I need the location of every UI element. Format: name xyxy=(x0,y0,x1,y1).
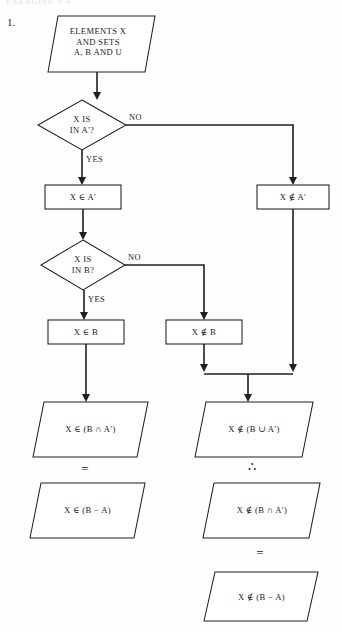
edge-label-decision-a-yes: YES xyxy=(86,155,103,164)
relation-symbol-left-equals: = xyxy=(55,461,115,477)
flowchart-canvas xyxy=(0,0,342,632)
relation-symbol-right-therefore: ∴ xyxy=(222,459,282,475)
arrowhead-not-in-b-to-merge xyxy=(200,364,208,372)
relation-symbol-right-equals: = xyxy=(230,545,290,561)
arrowhead-decision-b-yes xyxy=(80,312,88,320)
arrowhead-decision-a-yes xyxy=(78,177,86,185)
edge-decision-b-no xyxy=(125,265,204,314)
arrowhead-start-to-decision-a xyxy=(93,92,101,100)
edge-decision-a-no xyxy=(126,125,293,179)
node-in-a-prime-shape xyxy=(45,185,121,209)
node-result-not-intersect-shape xyxy=(203,483,320,538)
node-result-intersect-shape xyxy=(33,402,148,457)
arrowhead-in-a-prime-to-decision-b xyxy=(79,232,87,240)
node-decision-b-shape xyxy=(41,240,125,290)
edge-label-decision-b-yes: YES xyxy=(88,295,105,304)
node-result-not-b-minus-a-shape xyxy=(204,572,318,621)
node-result-union-shape xyxy=(195,402,313,457)
node-not-in-b-shape xyxy=(166,320,242,344)
node-result-b-minus-a-shape xyxy=(30,483,145,538)
arrowhead-in-b-to-result-intersect xyxy=(82,394,90,402)
edge-label-decision-b-no: NO xyxy=(128,253,141,262)
flowchart-page: EXERCISE 5-4 1. xyxy=(0,0,342,632)
arrowhead-merge-to-result-union xyxy=(244,394,252,402)
edge-label-decision-a-no: NO xyxy=(129,113,142,122)
node-in-b-shape xyxy=(48,320,124,344)
node-decision-a-shape xyxy=(38,100,126,150)
arrowhead-decision-a-no xyxy=(289,177,297,185)
node-not-in-a-prime-shape xyxy=(257,185,329,209)
arrowhead-decision-b-no xyxy=(200,312,208,320)
arrowhead-not-in-a-prime-to-merge xyxy=(289,364,297,372)
node-start-shape xyxy=(48,16,155,72)
